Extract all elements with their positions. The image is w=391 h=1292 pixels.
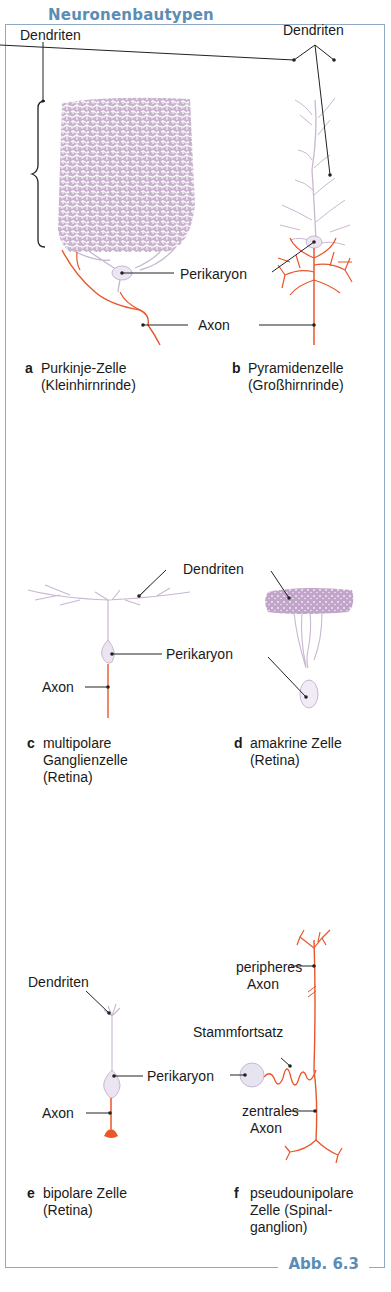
- label-pyramidal-dendrites: Dendriten: [283, 22, 344, 38]
- label-peripheral-axon-line1: peripheres: [236, 959, 302, 975]
- panel-c-region: (Retina): [43, 769, 93, 785]
- panel-letter-a: a: [25, 360, 37, 377]
- caption-panel-d: d amakrine Zelle(Retina): [234, 735, 342, 769]
- panel-c-name: multipolare: [43, 735, 111, 751]
- label-bipolar-axon: Axon: [42, 1105, 74, 1121]
- panel-d-region: (Retina): [250, 752, 300, 768]
- panel-a-name: Purkinje-Zelle: [41, 360, 127, 376]
- label-stem-process: Stammfortsatz: [193, 1024, 283, 1040]
- label-dendrites-cd: Dendriten: [183, 561, 244, 577]
- label-central-axon-line1: zentrales: [242, 1103, 299, 1119]
- panel-letter-d: d: [234, 735, 246, 752]
- panel-b-name: Pyramidenzelle: [248, 360, 344, 376]
- label-perikaryon-cd: Perikaryon: [166, 646, 233, 662]
- label-peripheral-axon: peripheresAxon: [236, 959, 290, 993]
- caption-panel-e: e bipolare Zelle(Retina): [27, 1185, 127, 1219]
- purkinje-cell-drawing: [32, 42, 195, 345]
- caption-panel-a: a Purkinje-Zelle(Kleinhirnrinde): [25, 360, 136, 394]
- label-central-axon: zentralesAxon: [242, 1103, 290, 1137]
- panel-letter-c: c: [27, 735, 39, 752]
- label-central-axon-line2: Axon: [250, 1120, 282, 1136]
- label-ganglion-axon: Axon: [42, 679, 74, 695]
- label-bipolar-dendrites: Dendriten: [28, 974, 89, 990]
- panel-f-region: ganglion): [250, 1219, 308, 1235]
- panel-d-name: amakrine Zelle: [250, 735, 342, 751]
- panel-c-name-2: Ganglienzelle: [43, 752, 128, 768]
- panel-b-region: (Großhirnrinde): [248, 377, 344, 393]
- label-perikaryon-ab: Perikaryon: [180, 266, 247, 282]
- label-axon-ab: Axon: [198, 317, 230, 333]
- panel-e-name: bipolare Zelle: [43, 1185, 127, 1201]
- bipolar-cell-drawing: [86, 991, 143, 1138]
- panel-letter-b: b: [232, 360, 244, 377]
- panel-e-region: (Retina): [43, 1202, 93, 1218]
- amacrine-cell-drawing: [265, 571, 353, 708]
- panel-letter-f: f: [234, 1185, 246, 1202]
- label-perikaryon-ef: Perikaryon: [147, 1068, 214, 1084]
- caption-panel-c: c multipolareGanglienzelle(Retina): [27, 735, 128, 786]
- panel-f-name: pseudounipolare: [250, 1185, 354, 1201]
- label-purkinje-dendrites: Dendriten: [20, 27, 81, 43]
- caption-panel-b: b Pyramidenzelle(Großhirnrinde): [232, 360, 344, 394]
- panel-f-name-2: Zelle (Spinal-: [250, 1202, 332, 1218]
- ganglion-cell-drawing: [28, 570, 190, 718]
- caption-panel-f: f pseudounipolareZelle (Spinal-ganglion): [234, 1185, 353, 1236]
- panel-a-region: (Kleinhirnrinde): [41, 377, 136, 393]
- label-peripheral-axon-line2: Axon: [247, 976, 279, 992]
- panel-letter-e: e: [27, 1185, 39, 1202]
